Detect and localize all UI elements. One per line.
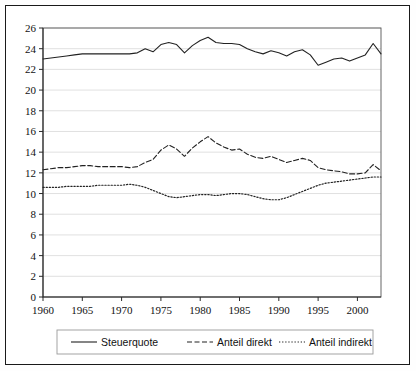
plot-area-border (43, 28, 381, 297)
y-tick-label: 0 (31, 291, 37, 303)
legend-label-anteil-indirekt: Anteil indirekt (309, 336, 372, 348)
series-line-steuerquote (43, 37, 381, 65)
y-tick-label: 8 (31, 208, 37, 220)
data-series-group (43, 37, 381, 199)
series-line-anteil-indirekt (43, 177, 381, 200)
y-tick-marks (39, 28, 43, 297)
y-axis-tick-labels: 02468101214161820222426 (25, 22, 37, 303)
y-tick-label: 4 (31, 250, 37, 262)
y-tick-label: 6 (31, 229, 37, 241)
line-chart: 02468101214161820222426 1960196519701975… (0, 0, 416, 371)
x-tick-label: 1985 (229, 304, 252, 316)
x-tick-label: 1980 (189, 304, 212, 316)
legend-label-anteil-direkt: Anteil direkt (217, 336, 272, 348)
axis-lines (43, 28, 381, 297)
x-tick-label: 1970 (111, 304, 134, 316)
x-axis-tick-labels: 196019651970197519801985199019952000 (32, 304, 369, 316)
y-tick-label: 14 (25, 146, 37, 158)
y-tick-label: 12 (25, 167, 36, 179)
y-tick-label: 20 (25, 84, 37, 96)
chart-legend: SteuerquoteAnteil direktAnteil indirekt (57, 330, 373, 354)
x-tick-label: 1965 (71, 304, 94, 316)
y-tick-label: 22 (25, 63, 36, 75)
legend-label-steuerquote: Steuerquote (101, 336, 158, 348)
y-tick-label: 2 (31, 270, 37, 282)
x-tick-label: 1960 (32, 304, 55, 316)
chart-figure: 02468101214161820222426 1960196519701975… (0, 0, 416, 371)
x-tick-label: 1975 (150, 304, 173, 316)
x-tick-label: 1995 (307, 304, 330, 316)
axes (43, 28, 381, 297)
y-tick-label: 18 (25, 105, 37, 117)
plot-area-rect (43, 28, 381, 297)
y-tick-label: 24 (25, 43, 37, 55)
gridlines (43, 28, 381, 276)
y-tick-label: 10 (25, 188, 37, 200)
y-tick-label: 26 (25, 22, 37, 34)
x-tick-label: 1990 (268, 304, 291, 316)
y-tick-label: 16 (25, 125, 37, 137)
x-tick-label: 2000 (346, 304, 369, 316)
x-tick-marks (43, 297, 357, 301)
series-line-anteil-direkt (43, 137, 381, 174)
